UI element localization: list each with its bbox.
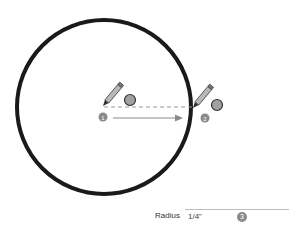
step-badge-2: 2 — [201, 114, 210, 123]
pencil-icon — [191, 84, 213, 109]
cursor-marker-icon — [212, 100, 223, 111]
circle-diagram: 1 2 — [0, 0, 289, 237]
arrow-icon — [113, 115, 183, 122]
cursor-marker-icon — [125, 95, 136, 106]
step-badge-1: 1 — [99, 113, 108, 122]
radius-label: Radius — [155, 211, 180, 220]
pencil-icon — [101, 82, 123, 107]
step-badge-3: 3 — [237, 212, 247, 222]
radius-input[interactable]: 1/4" 3 — [185, 209, 289, 224]
measurements-box: Radius 1/4" 3 — [155, 209, 289, 225]
radius-value: 1/4" — [188, 212, 202, 221]
